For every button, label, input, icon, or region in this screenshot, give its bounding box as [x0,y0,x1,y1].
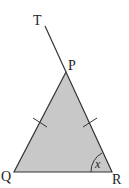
label-t: T [33,13,42,28]
label-p: P [68,58,76,73]
line-pt [45,26,66,72]
label-angle-x: x [94,157,101,171]
triangle-diagram: T P Q R x [0,0,129,188]
label-q: Q [1,169,11,184]
label-r: R [112,172,122,187]
